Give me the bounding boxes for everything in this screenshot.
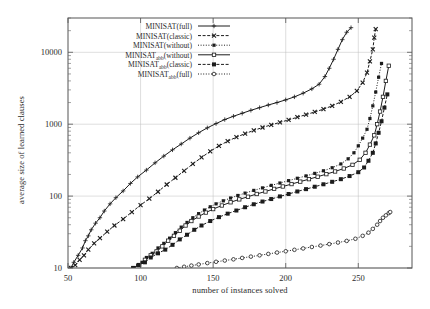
legend-label-5: MINISATabb(full) bbox=[138, 70, 193, 80]
legend-label-2: MINISAT(without) bbox=[133, 41, 193, 50]
x-axis-label: number of instances solved bbox=[192, 285, 288, 295]
y-tick-label: 10000 bbox=[41, 47, 62, 57]
y-axis-label: average size of learned clauses bbox=[16, 96, 26, 204]
x-tick-label: 250 bbox=[352, 273, 365, 283]
x-tick-label: 50 bbox=[64, 273, 73, 283]
legend-label-1: MINISAT(classic) bbox=[136, 32, 193, 41]
x-tick-label: 150 bbox=[207, 273, 220, 283]
chart-canvas: 1010010001000050100150200250 number of i… bbox=[0, 0, 430, 309]
y-tick-label: 10 bbox=[54, 263, 63, 273]
x-tick-label: 100 bbox=[134, 273, 147, 283]
figure-container: 1010010001000050100150200250 number of i… bbox=[0, 0, 430, 309]
legend-label-0: MINISAT(full) bbox=[146, 22, 193, 31]
y-tick-label: 1000 bbox=[45, 119, 62, 129]
y-tick-label: 100 bbox=[49, 191, 62, 201]
x-tick-label: 200 bbox=[279, 273, 292, 283]
